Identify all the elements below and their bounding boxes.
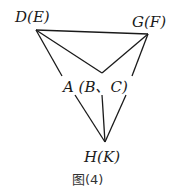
- label-top-right: G(F): [132, 13, 166, 31]
- label-bottom: H(K): [83, 148, 120, 166]
- folded-net-diagram: D(E) G(F) A (B、C) H(K) 图(4): [0, 0, 177, 194]
- label-top-left: D(E): [14, 8, 50, 26]
- edge-de-b: [36, 30, 102, 73]
- label-middle: A (B、C): [61, 78, 128, 96]
- edge-de-a: [36, 30, 62, 76]
- figure-caption: 图(4): [72, 172, 103, 187]
- edge-c-hk: [105, 95, 126, 142]
- edge-b-hk: [102, 95, 105, 142]
- edge-a-hk: [75, 95, 105, 142]
